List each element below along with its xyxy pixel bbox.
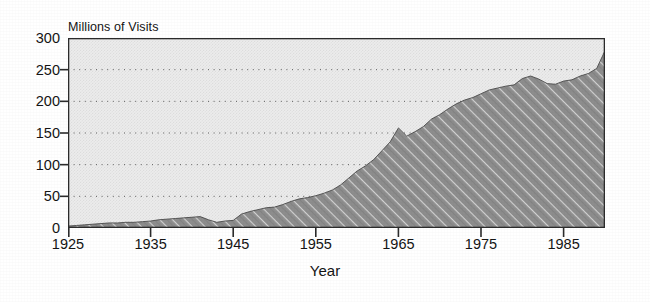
x-axis-title: Year [0, 262, 650, 279]
x-tick-label-1965: 1965 [368, 236, 428, 252]
x-tick-label-1985: 1985 [534, 236, 594, 252]
y-tick-label-50: 50 [8, 188, 60, 204]
x-axis-ticks [68, 228, 605, 238]
x-tick-label-1945: 1945 [203, 236, 263, 252]
y-tick-label-150: 150 [8, 125, 60, 141]
y-tick-label-100: 100 [8, 157, 60, 173]
y-axis-title: Millions of Visits [68, 20, 158, 34]
chart-figure: Millions of Visits 300 250 200 150 100 5… [0, 0, 650, 302]
x-tick-label-1955: 1955 [286, 236, 346, 252]
y-tick-label-300: 300 [8, 30, 60, 46]
y-tick-label-0: 0 [8, 220, 60, 236]
area-chart-svg [68, 38, 605, 228]
y-axis-ticks [59, 38, 69, 228]
y-tick-label-250: 250 [8, 62, 60, 78]
x-tick-label-1935: 1935 [121, 236, 181, 252]
x-tick-label-1975: 1975 [451, 236, 511, 252]
y-tick-label-200: 200 [8, 93, 60, 109]
x-tick-label-1925: 1925 [38, 236, 98, 252]
plot-area [68, 38, 605, 228]
